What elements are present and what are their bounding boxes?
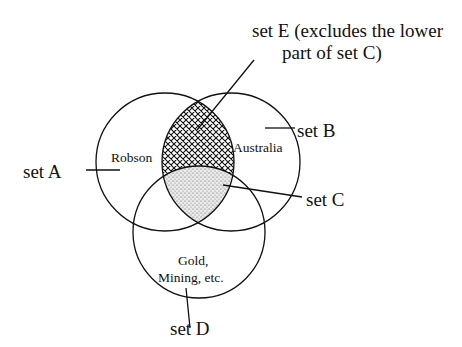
label-set-e-line1: set E (excludes the lower — [252, 20, 444, 42]
label-set-a: set A — [23, 161, 62, 182]
label-set-d: set D — [170, 318, 210, 339]
label-set-c: set C — [306, 189, 345, 210]
label-set-b: set B — [297, 120, 336, 141]
label-gold: Gold, — [178, 253, 208, 268]
label-australia: Australia — [233, 140, 283, 155]
label-mining: Mining, etc. — [158, 270, 224, 285]
leader-set-c — [223, 185, 302, 197]
region-e-crosshatch — [0, 0, 462, 347]
label-robson: Robson — [111, 150, 153, 165]
venn-diagram: set E (excludes the lower part of set C)… — [0, 0, 462, 347]
label-set-e-line2: part of set C) — [282, 42, 382, 64]
